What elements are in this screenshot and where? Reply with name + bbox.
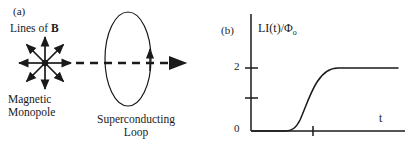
field-arrow-nw [27,45,46,64]
y-tick-label-0: 0 [234,122,240,134]
superconducting-loop-label-line1: Superconducting [97,113,175,126]
panel-a-tag: (a) [13,5,25,17]
y-tick-label-2: 2 [234,60,240,72]
field-arrow-se [45,63,64,82]
x-axis-label: t [379,112,382,125]
lines-of-b-label: Lines of B [10,22,59,35]
lines-of-b-prefix: Lines of [10,22,51,34]
figure-vector-layer [0,0,409,143]
field-arrow-sw [27,63,46,82]
panel-b-tag: (b) [221,24,234,36]
superconducting-loop-label-line2: Loop [124,126,148,139]
magnetic-monopole-label-line1: Magnetic [8,93,51,106]
y-axis-label-subscript: o [293,28,297,37]
magnetic-monopole-label-line2: Monopole [8,106,55,119]
plot-ticks [245,68,313,136]
y-axis-label-main: LI(t)/Φ [258,21,293,35]
b-field-symbol: B [51,22,59,34]
monopole-point [42,60,48,66]
flux-response-curve [252,68,398,131]
superconducting-loop-ellipse [105,12,151,106]
figure-root: (a) Lines of B Magnetic Monopole Superco… [0,0,409,143]
y-axis-label: LI(t)/Φo [258,22,297,38]
field-arrow-ne [45,45,64,64]
